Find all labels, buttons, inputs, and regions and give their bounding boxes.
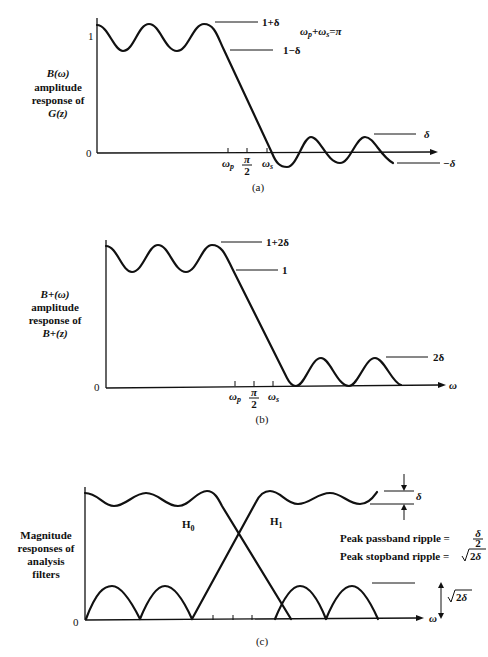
panel-c-ylabel-line2: responses of xyxy=(18,542,75,554)
panel-c-sqrt-label: 2δ xyxy=(456,591,468,603)
panel-a-level-1pd: 1+δ xyxy=(262,16,280,28)
panel-c: Magnitude responses of analysis filters … xyxy=(18,474,486,648)
panel-b-ylabel-line4: B+(z) xyxy=(41,327,67,340)
panel-a-ytick-0: 0 xyxy=(86,147,92,159)
panel-c-note-passband: Peak passband ripple = xyxy=(340,532,450,544)
panel-a-xtick-pi: π xyxy=(244,153,251,165)
panel-b: B+(ω) amplitude response of B+(z) 0 ω ωp… xyxy=(29,236,457,426)
panel-c-ytick-0: 0 xyxy=(73,616,79,628)
panel-c-ylabel-line3: analysis xyxy=(27,555,65,567)
panel-b-x-axis-label: ω xyxy=(449,379,457,391)
panel-b-xtick-pi: π xyxy=(251,386,258,398)
panel-c-x-arrow-icon xyxy=(416,615,424,621)
panel-c-note-passband-den: 2 xyxy=(475,537,481,549)
panel-b-xtick-ws: ωs xyxy=(268,390,279,404)
panel-b-xtick-2: 2 xyxy=(251,398,257,410)
panel-a-caption: (a) xyxy=(252,181,265,194)
panel-b-ylabel-line2: amplitude xyxy=(31,301,79,313)
panel-a-ylabel-line2: amplitude xyxy=(34,81,82,93)
panel-a-xtick-2: 2 xyxy=(244,165,250,177)
panel-a-level-1md: 1−δ xyxy=(283,44,301,56)
panel-c-caption: (c) xyxy=(256,635,269,648)
panel-c-x-axis-label: ω xyxy=(429,612,437,624)
panel-a-xtick-ws: ωs xyxy=(262,157,273,171)
panel-a-ytick-1: 1 xyxy=(88,30,94,42)
panel-c-h0-stopband xyxy=(86,586,192,619)
panel-c-ylabel-line1: Magnitude xyxy=(20,529,71,541)
panel-c-note-stopband: Peak stopband ripple = xyxy=(340,550,449,562)
panel-b-response-curve xyxy=(106,245,401,386)
panel-b-ylabel-line3: response of xyxy=(29,314,82,326)
panel-c-h1-label: H1 xyxy=(270,515,283,530)
panel-c-ylabel-line4: filters xyxy=(32,568,60,580)
panel-c-h1-stopband xyxy=(275,586,378,619)
panel-c-h0-label: H0 xyxy=(182,518,195,533)
panel-a-x-arrow-icon xyxy=(430,149,438,155)
panel-a-annotation: ωp+ωs=π xyxy=(300,25,343,39)
panel-b-ytick-0: 0 xyxy=(94,381,100,393)
panel-b-ylabel-line1: B+(ω) xyxy=(40,288,70,301)
panel-a-response-curve xyxy=(97,24,393,167)
panel-b-xtick-wp: ωp xyxy=(229,390,241,404)
panel-b-level-2d: 2δ xyxy=(433,351,445,363)
panel-c-arrow-up-icon xyxy=(401,504,407,510)
panel-c-h0-curve xyxy=(85,491,291,619)
panel-a-level-d: δ xyxy=(424,128,430,140)
panel-b-x-arrow-icon xyxy=(438,382,446,388)
panel-a-ylabel-line1: B(ω) xyxy=(46,67,70,80)
panel-c-arrow-up-icon-2 xyxy=(438,582,444,588)
panel-b-level-1p2d: 1+2δ xyxy=(266,236,289,248)
panel-c-arrow-down-icon-2 xyxy=(438,613,444,619)
panel-b-level-1: 1 xyxy=(282,264,288,276)
panel-a-xtick-wp: ωp xyxy=(222,157,234,171)
panel-a-ylabel-line4: G(z) xyxy=(48,107,68,120)
figure-canvas: B(ω) amplitude response of G(z) 1 0 ωp π… xyxy=(0,0,488,657)
panel-a-level-md: −δ xyxy=(443,157,456,169)
panel-a-ylabel-line3: response of xyxy=(32,94,85,106)
panel-c-arrow-down-icon xyxy=(401,485,407,491)
panel-b-caption: (b) xyxy=(256,413,269,426)
panel-a: B(ω) amplitude response of G(z) 1 0 ωp π… xyxy=(32,16,456,194)
panel-c-note-stopband-rad: 2δ xyxy=(470,550,482,562)
panel-c-delta-label: δ xyxy=(416,490,422,502)
